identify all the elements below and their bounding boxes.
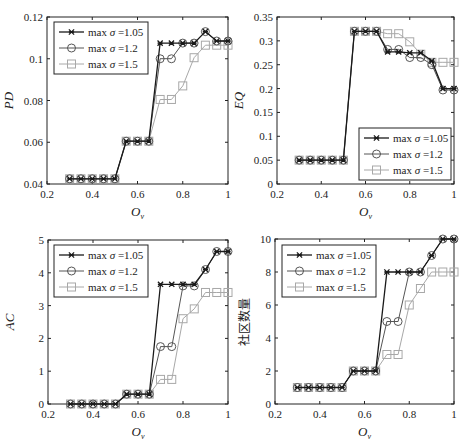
y-tick-label: 10 xyxy=(260,233,272,245)
figure-canvas: 0.20.40.60.810.040.060.080.10.12OvPDmax … xyxy=(0,0,470,448)
y-axis-label: 社区数量 xyxy=(237,298,252,346)
y-tick-label: 0.15 xyxy=(254,106,274,118)
x-tick-label: 0.4 xyxy=(85,188,99,200)
subplot-pd: 0.20.40.60.810.040.060.080.10.12OvPDmax … xyxy=(1,11,232,221)
y-tick-label: 0.04 xyxy=(24,178,44,190)
legend-label: max σ =1.05 xyxy=(88,249,144,261)
y-tick-label: 0.05 xyxy=(254,154,274,166)
x-tick-label: 0.6 xyxy=(131,408,145,420)
x-tick-label: 0.8 xyxy=(176,408,190,420)
x-tick-label: 0.4 xyxy=(313,408,327,420)
y-axis-label: PD xyxy=(1,91,16,110)
y-tick-label: 0 xyxy=(266,398,272,410)
y-axis-label: AC xyxy=(2,313,17,331)
y-tick-label: 2 xyxy=(39,332,45,344)
legend-label: max σ =1.2 xyxy=(316,265,366,277)
x-tick-label: 1 xyxy=(225,408,231,420)
y-tick-label: 0.25 xyxy=(254,59,274,71)
figure: 0.20.40.60.810.040.060.080.10.12OvPDmax … xyxy=(0,0,470,448)
x-axis-label: Ov xyxy=(132,424,145,441)
legend-label: max σ =1.2 xyxy=(88,42,138,54)
x-tick-label: 1 xyxy=(225,188,231,200)
legend-label: max σ =1.2 xyxy=(393,148,443,160)
y-axis-label: EQ xyxy=(231,91,246,110)
subplot-ac: 0.20.40.60.81012345OvACmax σ =1.05max σ … xyxy=(2,234,232,441)
x-tick-label: 1 xyxy=(451,188,457,200)
y-tick-label: 1 xyxy=(39,365,45,377)
legend-label: max σ =1.5 xyxy=(393,164,443,176)
y-tick-label: 0 xyxy=(39,398,45,410)
legend: max σ =1.05max σ =1.2max σ =1.5 xyxy=(54,22,148,74)
y-tick-label: 5 xyxy=(39,234,45,246)
legend-label: max σ =1.05 xyxy=(316,249,372,261)
y-tick-label: 4 xyxy=(266,332,272,344)
y-tick-label: 0.35 xyxy=(254,11,274,23)
y-tick-label: 0.06 xyxy=(24,136,44,148)
legend-label: max σ =1.5 xyxy=(316,281,366,293)
x-axis-label: Ov xyxy=(358,424,371,441)
y-tick-label: 4 xyxy=(39,267,45,279)
x-tick-label: 0.4 xyxy=(314,188,328,200)
x-axis-label: Ov xyxy=(131,204,144,221)
y-tick-label: 0.08 xyxy=(24,95,44,107)
x-tick-label: 0.8 xyxy=(402,408,416,420)
y-tick-label: 8 xyxy=(266,266,272,278)
y-tick-label: 6 xyxy=(266,299,272,311)
legend-label: max σ =1.5 xyxy=(88,281,138,293)
x-tick-label: 0.4 xyxy=(86,408,100,420)
x-tick-label: 0.8 xyxy=(403,188,417,200)
x-tick-label: 1 xyxy=(451,408,457,420)
x-tick-label: 0.6 xyxy=(358,408,372,420)
y-tick-label: 0 xyxy=(268,178,274,190)
legend-label: max σ =1.05 xyxy=(393,132,449,144)
y-tick-label: 0.3 xyxy=(259,35,273,47)
legend-label: max σ =1.2 xyxy=(88,265,138,277)
x-tick-label: 0.6 xyxy=(131,188,145,200)
legend-label: max σ =1.05 xyxy=(88,26,144,38)
y-tick-label: 0.1 xyxy=(259,130,273,142)
y-tick-label: 3 xyxy=(39,300,45,312)
subplot-eq: 0.20.40.60.8100.050.10.150.20.250.30.35O… xyxy=(231,11,458,221)
legend-label: max σ =1.5 xyxy=(88,58,138,70)
y-tick-label: 0.12 xyxy=(24,11,43,23)
x-tick-label: 0.6 xyxy=(359,188,373,200)
x-axis-label: Ov xyxy=(359,204,372,221)
y-tick-label: 2 xyxy=(266,365,272,377)
legend: max σ =1.05max σ =1.2max σ =1.5 xyxy=(54,245,148,297)
x-tick-label: 0.8 xyxy=(176,188,190,200)
y-tick-label: 0.1 xyxy=(29,53,43,65)
y-tick-label: 0.2 xyxy=(259,83,273,95)
legend: max σ =1.05max σ =1.2max σ =1.5 xyxy=(359,128,451,180)
legend: max σ =1.05max σ =1.2max σ =1.5 xyxy=(282,245,376,297)
subplot-community-count: 0.20.40.60.810246810Ov社区数量max σ =1.05max… xyxy=(237,233,458,441)
